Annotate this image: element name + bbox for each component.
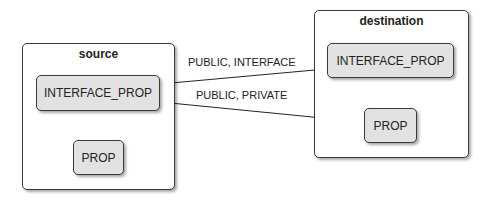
edge-label-public-private: PUBLIC, PRIVATE [196,89,287,101]
node-destination-prop[interactable]: PROP [364,108,417,143]
node-label: PROP [373,119,407,133]
edge-public-interface [160,69,326,84]
container-title-destination: destination [315,14,468,28]
node-source-prop[interactable]: PROP [73,140,124,175]
container-title-source: source [23,47,174,61]
node-source-interface-prop[interactable]: INTERFACE_PROP [36,75,160,111]
node-destination-interface-prop[interactable]: INTERFACE_PROP [327,43,454,78]
edge-label-public-interface: PUBLIC, INTERFACE [188,56,296,68]
node-label: INTERFACE_PROP [336,54,444,68]
node-label: PROP [81,151,115,165]
node-label: INTERFACE_PROP [44,86,152,100]
